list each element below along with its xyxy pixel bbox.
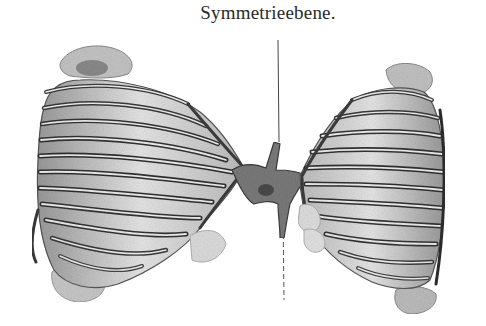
anatomical-figure: Symmetrieebene.: [0, 0, 486, 326]
left-rib-cage: [32, 46, 244, 302]
right-rib-cage: [298, 63, 444, 314]
rib-cage-illustration: [0, 0, 486, 326]
sternal-connection: [232, 142, 308, 238]
